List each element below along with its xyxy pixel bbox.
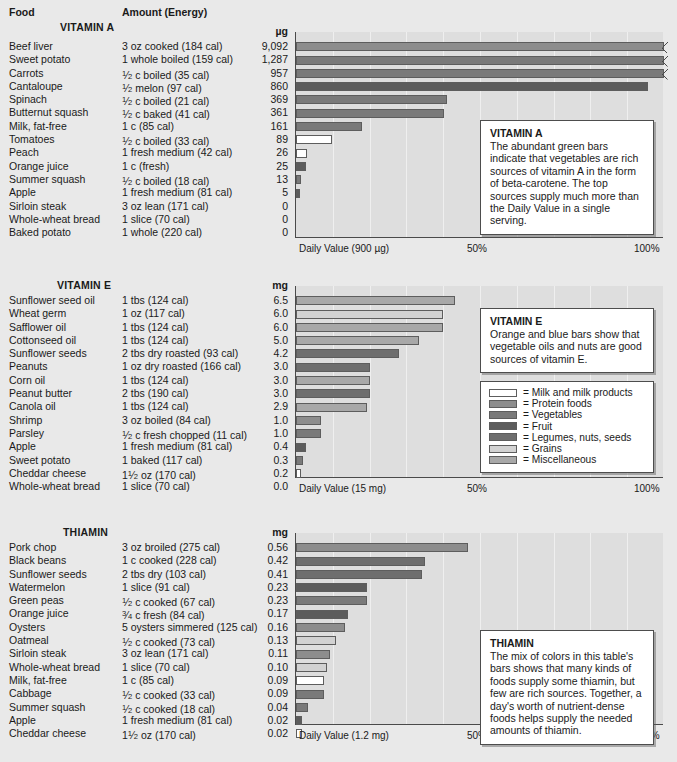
- nutrient-value: 0.13: [220, 634, 288, 647]
- table-row: Peanut butter 2 tbs (190 cal) 3.0: [0, 387, 295, 400]
- food-name: Whole-wheat bread: [9, 661, 100, 674]
- legend-item: = Legumes, nuts, seeds: [489, 432, 646, 443]
- bar: [296, 42, 664, 51]
- table-row: Whole-wheat bread 1 slice (70 cal) 0: [0, 213, 295, 226]
- food-amount: 1 tbs (124 cal): [122, 334, 189, 347]
- bar: [296, 310, 443, 319]
- food-name: Corn oil: [9, 374, 45, 387]
- legend: = Milk and milk products = Protein foods…: [480, 381, 654, 473]
- legend-swatch-protein: [489, 400, 517, 408]
- nutrient-value: 1,287: [220, 53, 288, 66]
- table-row: Shrimp 3 oz boiled (84 cal) 1.0: [0, 414, 295, 427]
- legend-item: = Miscellaneous: [489, 454, 646, 465]
- bar: [296, 323, 443, 332]
- table-row: Spinach 1⁄2 c boiled (21 cal) 369: [0, 93, 295, 106]
- food-amount: 1 slice (70 cal): [122, 480, 190, 493]
- legend-label: = Milk and milk products: [523, 387, 633, 398]
- food-amount: 1 c (85 cal): [122, 120, 174, 133]
- food-amount: 1 oz (117 cal): [122, 307, 185, 320]
- callout-title: THIAMIN: [490, 637, 645, 649]
- bar: [296, 56, 664, 65]
- nutrient-value: 0.0: [220, 480, 288, 493]
- food-table: Sunflower seed oil 1 tbs (124 cal) 6.5 W…: [0, 294, 295, 493]
- table-row: Safflower oil 1 tbs (124 cal) 6.0: [0, 321, 295, 334]
- nutrient-value: 161: [220, 120, 288, 133]
- bar: [296, 557, 425, 566]
- nutrient-value: 361: [220, 106, 288, 119]
- table-row: Orange juice 1 c (fresh) 25: [0, 160, 295, 173]
- gridline: [443, 286, 444, 477]
- food-name: Sunflower seed oil: [9, 294, 95, 307]
- legend-label: = Legumes, nuts, seeds: [523, 432, 631, 443]
- legend-swatch-milk: [489, 389, 517, 397]
- food-name: Sirloin steak: [9, 647, 66, 660]
- legend-swatch-legumes: [489, 433, 517, 441]
- table-row: Sirloin steak 3 oz lean (171 cal) 0.11: [0, 647, 295, 660]
- food-name: Sweet potato: [9, 53, 70, 66]
- legend-label: = Vegetables: [523, 409, 582, 420]
- nutrient-value: 0.11: [220, 647, 288, 660]
- bar: [296, 703, 308, 712]
- food-amount: 1 whole boiled (159 cal): [122, 53, 233, 66]
- bar: [296, 416, 321, 425]
- nutrient-value: 13: [220, 173, 288, 186]
- nutrient-value: 369: [220, 93, 288, 106]
- food-name: Wheat germ: [9, 307, 66, 320]
- bar: [296, 623, 345, 632]
- table-row: Cabbage 1⁄2 c cooked (33 cal) 0.09: [0, 687, 295, 700]
- food-table: Beef liver 3 oz cooked (184 cal) 9,092 S…: [0, 40, 295, 239]
- bar: [296, 429, 321, 438]
- table-row: Apple 1 fresh medium (81 cal) 0.4: [0, 440, 295, 453]
- nutrient-value: 0.10: [220, 661, 288, 674]
- table-row: Sunflower seeds 2 tbs dry roasted (93 ca…: [0, 347, 295, 360]
- food-name: Tomatoes: [9, 133, 55, 146]
- nutrient-value: 6.0: [220, 307, 288, 320]
- nutrient-value: 860: [220, 80, 288, 93]
- food-name: Orange juice: [9, 607, 69, 620]
- nutrient-value: 5.0: [220, 334, 288, 347]
- nutrient-value: 0.23: [220, 581, 288, 594]
- food-amount: 3 oz lean (171 cal): [122, 200, 208, 213]
- food-name: Sirloin steak: [9, 200, 66, 213]
- table-row: Summer squash 1⁄2 c cooked (18 cal) 0.04: [0, 701, 295, 714]
- nutrient-value: 0.4: [220, 440, 288, 453]
- food-name: Oatmeal: [9, 634, 49, 647]
- food-name: Cheddar cheese: [9, 727, 86, 740]
- table-row: Tomatoes 1⁄2 c boiled (33 cal) 89: [0, 133, 295, 146]
- bar: [296, 596, 367, 605]
- bar: [296, 82, 648, 91]
- food-name: Peach: [9, 146, 39, 159]
- nutrient-value: 3.0: [220, 360, 288, 373]
- food-amount: 1 fresh medium (81 cal): [122, 714, 232, 727]
- legend-label: = Protein foods: [523, 398, 592, 409]
- nutrient-value: 0.09: [220, 687, 288, 700]
- food-amount: 1 fresh medium (42 cal): [122, 146, 232, 159]
- table-row: Carrots 1⁄2 c boiled (35 cal) 957: [0, 67, 295, 80]
- nutrient-value: 0: [220, 200, 288, 213]
- food-amount: 1 slice (91 cal): [122, 581, 190, 594]
- nutrient-value: 0.02: [220, 727, 288, 740]
- food-amount: 11⁄2 oz (170 cal): [122, 727, 196, 743]
- axis-label-daily-value: Daily Value (1.2 mg): [299, 730, 389, 741]
- food-name: Oysters: [9, 621, 45, 634]
- nutrient-value: 0.02: [220, 714, 288, 727]
- legend-label: = Grains: [523, 443, 562, 454]
- nutrient-value: 3.0: [220, 387, 288, 400]
- callout-text: The mix of colors in this table's bars s…: [490, 650, 645, 737]
- legend-swatch-grains: [489, 445, 517, 453]
- legend-swatch-miscellaneous: [489, 456, 517, 464]
- table-row: Cheddar cheese 11⁄2 oz (170 cal) 0.2: [0, 467, 295, 480]
- bar: [296, 376, 370, 385]
- food-name: Carrots: [9, 67, 43, 80]
- nutrient-value: 0.23: [220, 594, 288, 607]
- food-name: Sunflower seeds: [9, 347, 87, 360]
- table-row: Cantaloupe 1⁄2 melon (97 cal) 860: [0, 80, 295, 93]
- food-name: Whole-wheat bread: [9, 480, 100, 493]
- food-name: Peanut butter: [9, 387, 72, 400]
- bar: [296, 610, 348, 619]
- table-row: Canola oil 1 tbs (124 cal) 2.9: [0, 400, 295, 413]
- callout-box: VITAMIN E Orange and blue bars show that…: [480, 308, 654, 373]
- axis-tick-50: 50%: [467, 243, 487, 254]
- food-name: Milk, fat-free: [9, 674, 67, 687]
- table-row: Sweet potato 1 whole boiled (159 cal) 1,…: [0, 53, 295, 66]
